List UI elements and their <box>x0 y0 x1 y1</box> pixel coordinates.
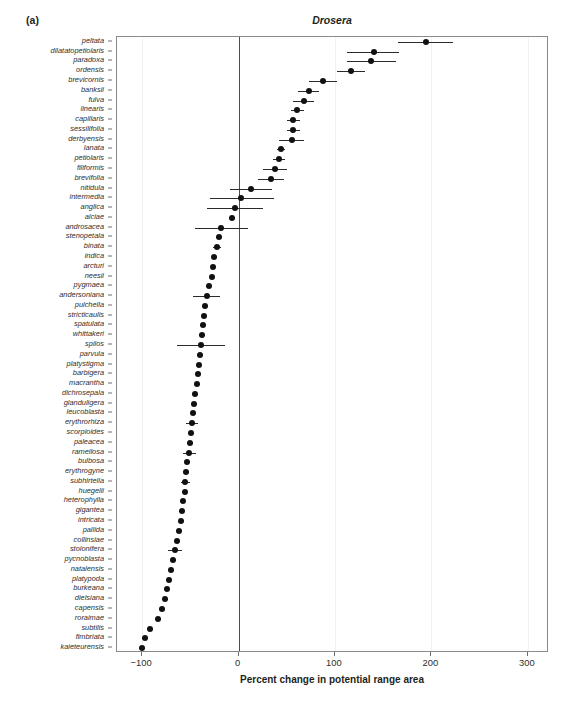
y-tick-mark <box>108 383 112 384</box>
y-tick-mark <box>108 187 112 188</box>
data-point <box>172 547 178 553</box>
y-tick-mark <box>108 637 112 638</box>
y-tick-label: alciae <box>85 213 104 220</box>
data-point <box>182 479 188 485</box>
x-tick-mark <box>141 652 142 656</box>
y-tick-label: platystigma <box>67 360 104 367</box>
y-axis-tick-labels: peltatadilatatopetiolarisparadoxaordensi… <box>0 36 112 652</box>
y-tick-label: andersoniana <box>59 291 104 298</box>
data-point <box>170 557 176 563</box>
y-tick-label: barbigera <box>73 370 104 377</box>
y-tick-label: intermedia <box>69 194 104 201</box>
y-tick-mark <box>108 617 112 618</box>
y-tick-mark <box>108 138 112 139</box>
data-point <box>289 137 295 143</box>
data-point <box>178 518 184 524</box>
data-point <box>191 401 197 407</box>
data-point <box>174 538 180 544</box>
y-tick-label: whittakeri <box>73 331 104 338</box>
y-tick-label: binata <box>84 243 104 250</box>
data-point <box>214 244 220 250</box>
y-tick-mark <box>108 158 112 159</box>
x-tick-mark <box>238 652 239 656</box>
y-tick-mark <box>108 324 112 325</box>
y-tick-label: linearis <box>81 106 104 113</box>
y-tick-label: petiolaris <box>74 155 104 162</box>
x-tick-mark <box>430 652 431 656</box>
y-tick-mark <box>108 422 112 423</box>
data-point <box>180 498 186 504</box>
y-tick-label: paradoxa <box>73 57 104 64</box>
y-tick-mark <box>108 568 112 569</box>
data-point <box>155 616 161 622</box>
data-point <box>197 352 203 358</box>
data-point <box>423 39 429 45</box>
y-tick-label: neesii <box>85 272 104 279</box>
y-tick-label: stricticaulis <box>68 311 104 318</box>
y-tick-mark <box>108 588 112 589</box>
data-point <box>164 586 170 592</box>
y-tick-label: roraimae <box>75 614 104 621</box>
y-tick-label: stenopetala <box>66 233 104 240</box>
data-point <box>187 440 193 446</box>
y-tick-mark <box>108 334 112 335</box>
x-tick-label: 0 <box>235 657 240 668</box>
x-tick-label: 100 <box>326 657 342 668</box>
y-tick-label: indica <box>85 252 104 259</box>
y-tick-label: pycnoblasta <box>65 555 104 562</box>
data-point <box>268 176 274 182</box>
y-tick-label: erythrorhiza <box>65 419 104 426</box>
x-tick-label: 300 <box>519 657 535 668</box>
y-tick-label: peltata <box>82 37 104 44</box>
y-tick-label: glanduligera <box>64 399 104 406</box>
y-tick-mark <box>108 441 112 442</box>
y-tick-label: gigantea <box>76 507 104 514</box>
y-tick-mark <box>108 598 112 599</box>
y-tick-mark <box>108 490 112 491</box>
data-point <box>229 215 235 221</box>
data-point <box>195 371 201 377</box>
y-tick-label: capillaris <box>75 115 104 122</box>
y-tick-mark <box>108 89 112 90</box>
y-tick-mark <box>108 363 112 364</box>
x-axis-tick-labels: −1000100200300 <box>116 652 548 676</box>
data-point <box>278 146 284 152</box>
y-tick-mark <box>108 148 112 149</box>
y-tick-label: subtilis <box>81 624 104 631</box>
data-point <box>159 606 165 612</box>
data-point <box>176 528 182 534</box>
y-tick-label: fimbriata <box>76 634 104 641</box>
data-point <box>272 166 278 172</box>
y-tick-mark <box>108 128 112 129</box>
y-tick-label: burkeana <box>73 585 104 592</box>
data-point <box>238 195 244 201</box>
x-tick-label: −100 <box>131 657 152 668</box>
y-tick-mark <box>108 539 112 540</box>
data-point <box>201 313 207 319</box>
y-tick-mark <box>108 80 112 81</box>
data-point <box>192 391 198 397</box>
panel-letter: (a) <box>26 14 39 26</box>
data-point <box>190 410 196 416</box>
y-tick-mark <box>108 647 112 648</box>
y-tick-mark <box>108 402 112 403</box>
y-tick-label: androsacea <box>65 223 104 230</box>
data-point <box>200 322 206 328</box>
data-point <box>216 234 222 240</box>
data-point <box>162 596 168 602</box>
y-tick-mark <box>108 559 112 560</box>
y-tick-label: paleacea <box>74 438 104 445</box>
y-tick-label: brevifolia <box>74 174 104 181</box>
y-tick-label: nitidula <box>81 184 104 191</box>
y-tick-mark <box>108 627 112 628</box>
y-tick-mark <box>108 373 112 374</box>
y-tick-label: banksii <box>81 86 104 93</box>
y-tick-mark <box>108 119 112 120</box>
data-point <box>211 254 217 260</box>
data-point <box>204 293 210 299</box>
data-point <box>147 626 153 632</box>
y-tick-label: ordensis <box>76 67 104 74</box>
data-point <box>209 274 215 280</box>
data-point <box>301 98 307 104</box>
y-tick-mark <box>108 177 112 178</box>
